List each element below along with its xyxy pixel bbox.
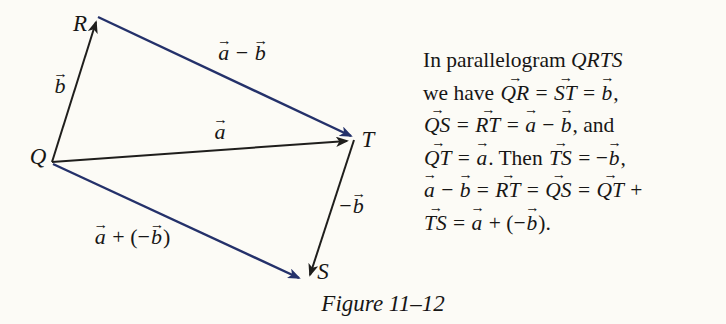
vector-symbol: a	[214, 119, 227, 145]
text-segment: =	[451, 113, 474, 137]
vector-symbol: RT	[494, 174, 521, 207]
text-segment: + (−	[107, 224, 150, 249]
label-minus-b: −b	[339, 193, 364, 219]
text-segment: =	[501, 113, 524, 137]
text-segment: −	[230, 40, 253, 65]
vertex-label-Q: Q	[30, 145, 47, 168]
label-a-plus-neg-b: a + (−b)	[94, 224, 170, 250]
vector-symbol: b	[526, 207, 539, 240]
figure-caption: Figure 11–12	[321, 291, 444, 317]
label-a-minus-b: a − b	[217, 40, 266, 66]
vector-symbol: a	[471, 207, 484, 240]
text-segment: In parallelogram	[423, 48, 571, 72]
text-segment: =	[448, 211, 471, 235]
vertex-label-R: R	[73, 12, 87, 35]
text-segment: + (−	[483, 211, 525, 235]
parallelogram-vector-diagram: QRTSba − ba−ba + (−b)	[0, 0, 440, 324]
label-b: b	[54, 73, 67, 99]
vector-QT	[52, 141, 347, 162]
text-segment: =	[578, 81, 601, 105]
label-a: a	[214, 119, 227, 145]
explanation-paragraph: In parallelogram QRTSwe have QR = ST = b…	[423, 44, 723, 239]
vector-symbol: b	[352, 193, 365, 219]
text-segment: . Then	[488, 146, 548, 170]
text-segment: = −	[573, 146, 608, 170]
text-segment: ).	[538, 211, 551, 235]
vector-symbol: b	[54, 73, 67, 99]
vertex-label-T: T	[362, 128, 375, 151]
textbook-figure-page: QRTSba − ba−ba + (−b) Figure 11–12 In pa…	[0, 0, 726, 324]
vector-symbol: b	[150, 224, 163, 250]
text-segment: QRTS	[571, 48, 622, 72]
vector-symbol: a	[217, 40, 230, 66]
text-segment: =	[573, 178, 596, 202]
vertex-label-S: S	[317, 260, 329, 283]
vector-symbol: TS	[423, 207, 448, 240]
text-segment: +	[625, 178, 643, 202]
vector-symbol: b	[601, 77, 614, 110]
vector-symbol: QT	[595, 174, 624, 207]
vector-symbol: a	[524, 109, 537, 142]
vector-symbol: b	[254, 40, 267, 66]
vector-symbol: a	[475, 142, 488, 175]
vector-symbol: QS	[544, 174, 572, 207]
vector-symbol: a	[94, 224, 107, 250]
vector-QS	[53, 164, 299, 278]
text-line-6: TS = a + (−b).	[423, 207, 723, 240]
